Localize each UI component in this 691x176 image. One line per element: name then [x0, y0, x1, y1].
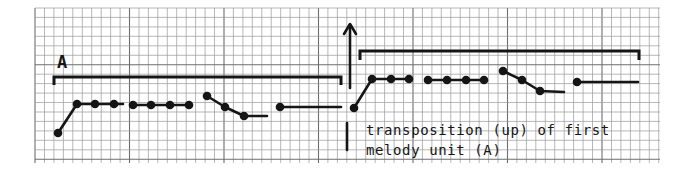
note-dot: [185, 101, 194, 110]
section-label-a: A: [57, 52, 67, 72]
note-dot: [240, 112, 249, 121]
note-dot: [91, 100, 100, 109]
note-dot: [129, 101, 138, 110]
note-dot: [536, 87, 545, 96]
note-dot: [203, 92, 212, 101]
note-dot: [147, 101, 156, 110]
note-dot: [276, 103, 285, 112]
annotation-line-1: transposition (up) of first: [366, 122, 610, 138]
melody-diagram: A transposition (up) of first melody uni…: [0, 0, 691, 176]
note-dot: [443, 76, 452, 85]
note-dot: [387, 75, 396, 84]
annotation-line-2: melody unit (A): [366, 142, 501, 158]
note-dot: [424, 76, 433, 85]
note-dot: [73, 100, 82, 109]
note-dot: [405, 75, 414, 84]
note-dot: [110, 100, 119, 109]
note-dot: [518, 76, 527, 85]
note-dot: [221, 103, 230, 112]
note-dot: [166, 101, 175, 110]
note-dot: [480, 76, 489, 85]
note-dot: [350, 104, 359, 113]
note-dot: [499, 67, 508, 76]
note-dot: [54, 129, 63, 138]
note-dot: [573, 78, 582, 87]
note-dot: [368, 75, 377, 84]
note-dot: [462, 76, 471, 85]
